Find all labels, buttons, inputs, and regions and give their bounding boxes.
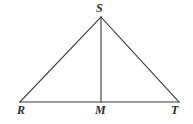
vertex-label-s: S (96, 2, 103, 14)
vertex-label-m: M (95, 104, 106, 116)
segment-rs (20, 17, 101, 102)
vertex-label-r: R (17, 104, 25, 116)
segment-st (101, 17, 179, 102)
vertex-label-t: T (171, 104, 178, 116)
geometry-figure: S R M T (0, 0, 193, 124)
